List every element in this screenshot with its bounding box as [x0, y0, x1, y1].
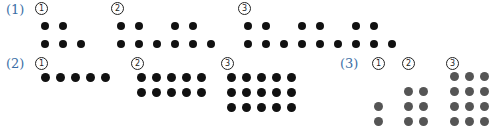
dot [298, 22, 306, 30]
dot [153, 40, 161, 48]
dot [419, 117, 428, 126]
dot [171, 40, 179, 48]
dot [189, 22, 197, 30]
dot [41, 22, 49, 30]
dot [244, 40, 252, 48]
dot [298, 40, 306, 48]
section-label-1: (1) [6, 3, 24, 17]
figure-number-2-2: 2 [131, 57, 144, 70]
dot [167, 88, 176, 97]
figure-number-1-1: 1 [35, 2, 48, 15]
dot [370, 22, 378, 30]
dot [152, 73, 161, 82]
dot [450, 87, 459, 96]
dot [450, 72, 459, 81]
dot [182, 88, 191, 97]
dot [287, 103, 296, 112]
dot [272, 88, 281, 97]
dot [171, 22, 179, 30]
dot [59, 22, 67, 30]
dot [465, 87, 474, 96]
dot [272, 103, 281, 112]
dot [465, 72, 474, 81]
dot [287, 88, 296, 97]
dot [41, 40, 49, 48]
figure-number-1-3: 3 [238, 2, 251, 15]
dot [189, 40, 197, 48]
dot [227, 103, 236, 112]
dot [257, 103, 266, 112]
dot [135, 40, 143, 48]
dot [257, 88, 266, 97]
dot [334, 40, 342, 48]
dot [316, 40, 324, 48]
dot [257, 73, 266, 82]
dot [465, 102, 474, 111]
dot [207, 40, 215, 48]
dot [86, 73, 95, 82]
dot [262, 22, 270, 30]
dot [77, 40, 85, 48]
figure-number-2-1: 1 [35, 57, 48, 70]
dot [352, 22, 360, 30]
dot [419, 102, 428, 111]
dot [480, 72, 489, 81]
dot [101, 73, 110, 82]
dot [117, 40, 125, 48]
dot [388, 40, 396, 48]
dot [152, 88, 161, 97]
dot [280, 40, 288, 48]
dot [244, 22, 252, 30]
dot [197, 88, 206, 97]
dot [59, 40, 67, 48]
section-label-3: (3) [340, 57, 358, 71]
dot [117, 22, 125, 30]
figure-number-3-3: 3 [446, 57, 459, 70]
dot [137, 88, 146, 97]
dot [197, 73, 206, 82]
dot [287, 73, 296, 82]
dot [227, 88, 236, 97]
dot [167, 73, 176, 82]
dot [374, 117, 383, 126]
dot [370, 40, 378, 48]
dot [404, 117, 413, 126]
dot [137, 73, 146, 82]
section-label-2: (2) [6, 57, 24, 71]
figure-number-3-1: 1 [372, 57, 385, 70]
dot [404, 102, 413, 111]
dot [352, 40, 360, 48]
dot [374, 102, 383, 111]
dot [41, 73, 50, 82]
dot [56, 73, 65, 82]
figure-number-2-3: 3 [221, 57, 234, 70]
dot [242, 73, 251, 82]
figure-number-1-2: 2 [111, 2, 124, 15]
dot [242, 88, 251, 97]
dot [227, 73, 236, 82]
figure-number-3-2: 2 [402, 57, 415, 70]
dot [262, 40, 270, 48]
dot [480, 117, 489, 126]
dot [480, 102, 489, 111]
dot [450, 117, 459, 126]
dot [316, 22, 324, 30]
dot [404, 87, 413, 96]
dot [135, 22, 143, 30]
dot [71, 73, 80, 82]
dot [450, 102, 459, 111]
dot [242, 103, 251, 112]
dot [182, 73, 191, 82]
dot [465, 117, 474, 126]
dot [419, 87, 428, 96]
dot [480, 87, 489, 96]
dot [272, 73, 281, 82]
